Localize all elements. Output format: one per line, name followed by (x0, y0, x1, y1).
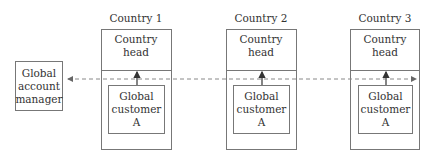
country-2-customer-line-2: customer (237, 103, 288, 115)
country-1-customer-line-2: customer (112, 103, 163, 115)
country-2-head-line-2: head (248, 46, 274, 58)
country-2-customer-line-3: A (257, 116, 266, 128)
manager-label-line-2: account (18, 80, 61, 92)
country-2-customer-line-1: Global (244, 90, 279, 102)
country-3-customer-line-2: customer (361, 103, 412, 115)
country-1-head-line-2: head (123, 46, 149, 58)
country-1-column: Country 1 Country head Global customer A (102, 12, 172, 150)
country-3-title: Country 3 (358, 12, 411, 24)
country-3-column: Country 3 Country head Global customer A (351, 12, 420, 150)
country-2-title: Country 2 (234, 12, 287, 24)
diagram-canvas: Global account manager Country 1 Country… (0, 0, 432, 158)
global-account-manager-box: Global account manager (15, 62, 63, 111)
country-3-customer-line-1: Global (368, 90, 403, 102)
country-1-customer-line-3: A (132, 116, 141, 128)
country-1-title: Country 1 (109, 12, 162, 24)
country-1-head-line-1: Country (114, 33, 157, 45)
country-1-customer-line-1: Global (119, 90, 154, 102)
country-3-customer-line-3: A (381, 116, 390, 128)
country-2-head-line-1: Country (239, 33, 282, 45)
country-2-column: Country 2 Country head Global customer A (227, 12, 297, 150)
country-3-head-line-2: head (372, 46, 398, 58)
country-3-head-line-1: Country (363, 33, 406, 45)
manager-label-line-1: Global (22, 67, 57, 79)
manager-label-line-3: manager (15, 93, 63, 105)
